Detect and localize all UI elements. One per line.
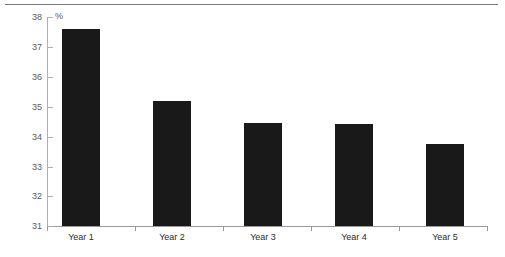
- y-axis-tick-label-wrap: 37: [14, 43, 42, 52]
- y-axis-tick: [47, 137, 53, 138]
- y-axis-tick-label: 38: [18, 13, 42, 22]
- y-axis-tick-label-wrap: 38: [14, 13, 42, 22]
- y-axis-tick-label: 35: [18, 103, 42, 112]
- plot-area: % 38 37 36 35 34 33 32 3: [0, 0, 505, 257]
- y-axis-tick-label-wrap: 31: [14, 222, 42, 231]
- x-axis-tick: [487, 226, 488, 231]
- y-axis-tick-label-wrap: 35: [14, 103, 42, 112]
- x-axis-label-year-5: Year 5: [400, 232, 490, 243]
- y-axis-tick: [47, 47, 53, 48]
- x-axis-tick: [47, 226, 48, 231]
- y-axis-tick-label: 33: [18, 163, 42, 172]
- y-axis-tick-label-wrap: 36: [14, 73, 42, 82]
- x-axis-label-year-1: Year 1: [36, 232, 126, 243]
- x-axis-label-year-2: Year 2: [127, 232, 217, 243]
- x-axis-tick: [135, 226, 136, 231]
- x-axis-tick: [399, 226, 400, 231]
- x-axis-line: [47, 226, 487, 227]
- y-axis-tick-label: 34: [18, 133, 42, 142]
- bar-year-1: [62, 29, 100, 226]
- bar-year-4: [335, 124, 373, 226]
- y-axis-tick-label: 36: [18, 73, 42, 82]
- x-axis-tick: [223, 226, 224, 231]
- bar-year-5: [426, 144, 464, 226]
- bar-chart-figure: % 38 37 36 35 34 33 32 3: [0, 0, 505, 257]
- y-axis-tick: [47, 196, 53, 197]
- y-axis-tick: [47, 107, 53, 108]
- y-axis-tick-label: 31: [18, 222, 42, 231]
- x-axis-label-year-3: Year 3: [218, 232, 308, 243]
- y-axis-tick-label-wrap: 34: [14, 133, 42, 142]
- y-axis-tick-label: 37: [18, 43, 42, 52]
- y-axis-tick: [47, 17, 53, 18]
- bar-year-2: [153, 101, 191, 226]
- y-axis-tick: [47, 77, 53, 78]
- x-axis-label-year-4: Year 4: [309, 232, 399, 243]
- y-axis-unit-label: %: [55, 12, 63, 21]
- x-axis-tick: [311, 226, 312, 231]
- bar-year-3: [244, 123, 282, 226]
- y-axis-tick-label-wrap: 33: [14, 163, 42, 172]
- y-axis-tick-label-wrap: 32: [14, 192, 42, 201]
- y-axis-tick: [47, 167, 53, 168]
- y-axis-tick-label: 32: [18, 192, 42, 201]
